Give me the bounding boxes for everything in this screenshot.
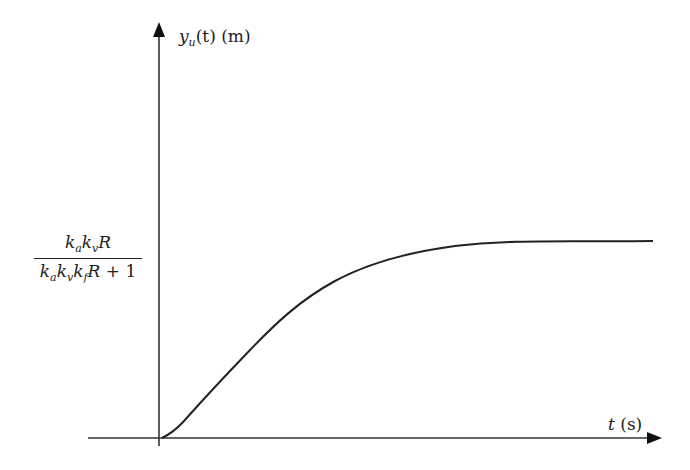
steady-state-value-label: kakvR kakvkfR + 1 [32, 232, 144, 284]
response-curve [162, 241, 653, 438]
fraction-numerator: kakvR [32, 232, 144, 258]
y-axis-label: yu(t) (m) [179, 26, 251, 49]
x-axis-label: t (s) [608, 414, 642, 434]
x-axis-arrow-icon [647, 432, 662, 444]
fraction-denominator: kakvkfR + 1 [32, 259, 144, 284]
y-axis-arrow-icon [153, 22, 165, 37]
